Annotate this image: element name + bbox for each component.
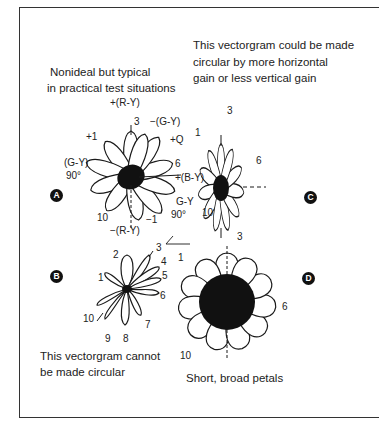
caption-a-line2: in practical test situations <box>47 80 175 96</box>
label-a-plus-by: +(B-Y) <box>175 172 204 183</box>
label-d-6: 6 <box>282 301 288 312</box>
label-d-1: 1 <box>178 252 184 263</box>
label-a-plus-1: +1 <box>86 131 97 142</box>
label-a-gy-left-angle: 90° <box>66 170 81 181</box>
caption-b-line2: be made circular <box>40 364 125 380</box>
label-a-plus-q: +Q <box>170 134 184 145</box>
badge-a: A <box>50 189 63 202</box>
label-d-3: 3 <box>237 231 243 242</box>
label-b-9: 9 <box>105 333 111 344</box>
label-a-3: 3 <box>134 116 140 127</box>
label-a-minus-ry: −(R-Y) <box>110 225 140 236</box>
label-a-minus-1: −1 <box>146 214 157 225</box>
vectorgram-c <box>198 135 266 238</box>
label-b-7: 7 <box>145 319 151 330</box>
badge-d: D <box>302 272 315 285</box>
caption-c-line2: circular by more horizontal <box>193 54 328 70</box>
label-a-6: 6 <box>175 158 181 169</box>
label-c-10: 10 <box>202 207 213 218</box>
label-b-3: 3 <box>156 242 162 253</box>
caption-d: Short, broad petals <box>186 370 283 386</box>
caption-b-line1: This vectorgram cannot <box>40 348 160 364</box>
caption-a-line1: Nonideal but typical <box>50 64 150 80</box>
label-a-neg-gy: −(G-Y) <box>150 116 180 127</box>
label-a-gy-right: G-Y <box>176 196 194 207</box>
label-c-6: 6 <box>256 155 262 166</box>
label-b-6: 6 <box>160 290 166 301</box>
label-c-3: 3 <box>227 105 233 116</box>
label-a-gy-right-angle: 90° <box>171 209 186 220</box>
label-b-10: 10 <box>83 313 94 324</box>
label-b-4: 4 <box>161 256 167 267</box>
caption-c-line3: gain or less vertical gain <box>193 70 316 86</box>
label-d-10: 10 <box>180 350 191 361</box>
label-b-8: 8 <box>123 333 129 344</box>
label-a-10: 10 <box>97 212 108 223</box>
label-a-plus-ry: +(R-Y) <box>110 97 140 108</box>
vectorgram-d <box>177 246 277 358</box>
caption-c-line1: This vectorgram could be made <box>193 37 354 53</box>
label-b-2: 2 <box>113 249 119 260</box>
badge-b: B <box>50 270 63 283</box>
label-c-1: 1 <box>195 127 201 138</box>
badge-c: C <box>304 191 317 204</box>
label-b-1: 1 <box>98 272 104 283</box>
label-b-5: 5 <box>162 270 168 281</box>
label-a-gy-left: (G-Y) <box>64 157 88 168</box>
vectorgram-b <box>97 251 161 325</box>
